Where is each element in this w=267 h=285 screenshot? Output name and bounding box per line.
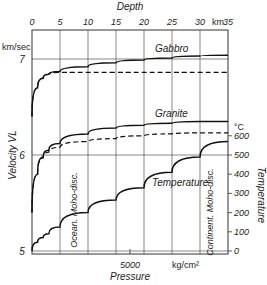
- temperature-line: [32, 142, 228, 251]
- continent-moho-label: Continent. Moho-disc.: [205, 168, 215, 256]
- right-tick-label: 600: [234, 131, 249, 141]
- gabbro-label: Gabbro: [155, 43, 189, 54]
- right-tick-label: 300: [234, 188, 249, 198]
- series-group: [32, 55, 228, 251]
- temperature-label: Temperature: [152, 177, 209, 188]
- right-tick-label: 200: [233, 208, 249, 218]
- top-tick-label: 15: [111, 17, 122, 27]
- right-tick-label: 500: [234, 150, 249, 160]
- granite-solid-line: [32, 121, 228, 212]
- right-axis-title: Temperature: [256, 167, 267, 224]
- left-axis-unit: km/sec: [2, 42, 31, 52]
- gabbro-dashed-line: [32, 72, 228, 116]
- velocity-temperature-chart: Depth 05101520253035 km. km/sec Velocity…: [0, 0, 267, 285]
- top-tick-label: 30: [195, 17, 205, 27]
- left-tick-label: 5: [19, 246, 25, 257]
- left-axis-title: Velocity VL: [7, 130, 18, 180]
- left-tick-label: 7: [19, 54, 25, 65]
- top-tick-label: 25: [166, 17, 178, 27]
- top-axis-unit: km.: [212, 17, 227, 27]
- right-axis-ticks: 0100200300400500600: [228, 131, 249, 256]
- granite-dashed-line: [32, 133, 228, 213]
- ocean-moho-label: Ocean. Moho-disc.: [69, 172, 79, 248]
- bottom-axis-ticks: 5000: [120, 249, 140, 270]
- right-tick-label: 100: [234, 227, 249, 237]
- bottom-axis-title: Pressure: [110, 271, 150, 282]
- top-axis-ticks: 05101520253035: [29, 17, 234, 27]
- top-tick-label: 5: [57, 17, 63, 27]
- top-tick-label: 10: [83, 17, 93, 27]
- gabbro-solid-line: [32, 55, 228, 116]
- bottom-tick-label: 5000: [120, 260, 140, 270]
- top-axis-title: Depth: [117, 1, 144, 12]
- top-tick-label: 20: [138, 17, 149, 27]
- granite-label: Granite: [155, 108, 188, 119]
- left-tick-label: 6: [19, 150, 25, 161]
- top-tick-label: 0: [29, 17, 34, 27]
- right-tick-label: 0: [234, 246, 239, 256]
- bottom-axis-unit: kg/cm²: [172, 260, 199, 270]
- left-axis-ticks: 567: [19, 54, 25, 257]
- right-tick-label: 400: [234, 169, 249, 179]
